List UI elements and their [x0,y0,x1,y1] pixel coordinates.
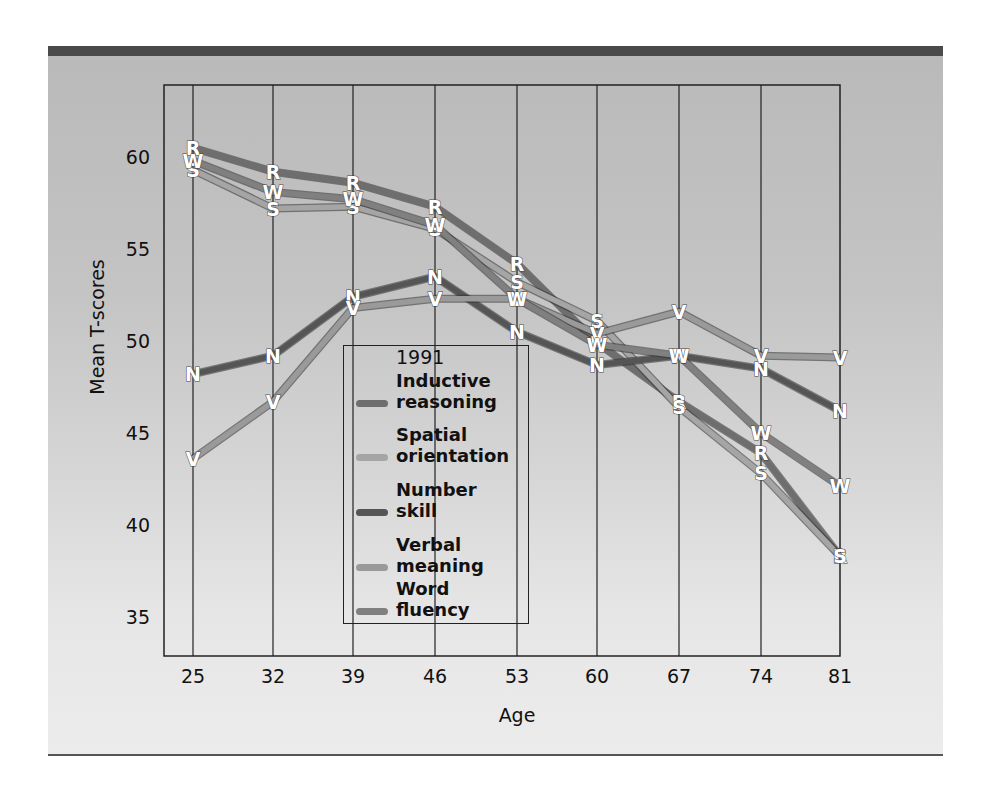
x-tick-label: 74 [749,665,773,687]
x-tick-label: 53 [505,665,529,687]
data-point-marker-verbal-meaning: V [346,297,361,319]
legend-item-spatial-orientation: Spatial orientation [344,424,530,474]
data-point-marker-spatial-orientation: S [754,462,768,484]
data-point-marker-word-fluency: W [263,181,284,203]
data-point-marker-number-skill: N [832,400,848,422]
x-tick-label: 67 [667,665,691,687]
legend-title: 1991 [396,346,444,368]
legend-item-verbal-meaning: Verbal meaning [344,534,530,584]
data-point-marker-verbal-meaning: V [428,288,443,310]
data-point-marker-verbal-meaning: V [266,391,281,413]
data-point-marker-word-fluency: W [507,288,528,310]
data-point-marker-spatial-orientation: S [672,396,686,418]
legend-label: Verbal meaning [396,534,484,576]
data-point-marker-word-fluency: W [751,422,772,444]
y-axis-title: Mean T-scores [86,259,108,394]
data-point-marker-word-fluency: W [830,475,851,497]
data-point-marker-word-fluency: W [587,334,608,356]
legend-label: Word fluency [396,578,470,620]
legend-swatch [356,400,388,407]
data-point-marker-spatial-orientation: S [833,545,847,567]
x-axis-ticks: 253239465360677481 [181,665,852,687]
x-tick-label: 25 [181,665,205,687]
x-axis-title: Age [499,704,536,726]
legend-label: Number skill [396,479,477,521]
legend-item-inductive-reasoning: Inductive reasoning [344,370,530,420]
data-point-marker-number-skill: N [589,354,605,376]
legend-swatch [356,608,388,615]
x-tick-label: 46 [423,665,447,687]
legend-label: Spatial orientation [396,424,509,466]
data-point-marker-verbal-meaning: V [186,448,201,470]
legend-swatch [356,564,388,571]
data-point-marker-number-skill: N [185,363,201,385]
data-point-marker-word-fluency: W [425,214,446,236]
y-tick-label: 45 [126,422,150,444]
data-point-marker-word-fluency: W [183,150,204,172]
data-point-marker-verbal-meaning: V [833,347,848,369]
legend-label: Inductive reasoning [396,370,497,412]
legend-swatch [356,509,388,516]
y-tick-label: 35 [126,606,150,628]
data-point-marker-number-skill: N [427,266,443,288]
data-point-marker-verbal-meaning: V [754,345,769,367]
x-tick-label: 81 [828,665,852,687]
x-tick-label: 32 [261,665,285,687]
y-tick-label: 60 [126,146,150,168]
data-point-marker-inductive-reasoning: R [266,161,281,183]
data-point-marker-verbal-meaning: V [672,301,687,323]
legend: 1991 Inductive reasoning Spatial orienta… [343,345,529,624]
data-point-marker-word-fluency: W [343,188,364,210]
x-tick-label: 39 [341,665,365,687]
legend-swatch [356,454,388,461]
data-point-marker-number-skill: N [265,345,281,367]
legend-item-number-skill: Number skill [344,479,530,529]
y-tick-label: 55 [126,238,150,260]
data-point-marker-word-fluency: W [669,345,690,367]
data-point-marker-inductive-reasoning: R [754,442,769,464]
y-tick-label: 50 [126,330,150,352]
y-tick-label: 40 [126,514,150,536]
x-tick-label: 60 [585,665,609,687]
y-axis-ticks: 354045505560 [126,146,150,628]
data-point-marker-number-skill: N [509,321,525,343]
legend-item-word-fluency: Word fluency [344,578,530,628]
